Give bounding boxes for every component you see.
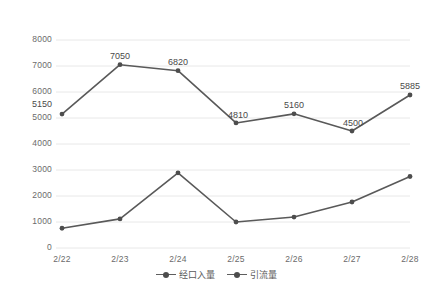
- data-point-label: 5885: [393, 81, 427, 91]
- data-point-label: 7050: [103, 51, 137, 61]
- x-axis-tick-label: 2/22: [42, 254, 82, 264]
- legend-item-2[interactable]: 引流量: [227, 268, 277, 281]
- series-lines: [62, 65, 410, 229]
- y-axis-tick-label: 0: [18, 242, 52, 252]
- y-axis-tick-label: 1000: [18, 216, 52, 226]
- data-point-label: 4810: [221, 110, 255, 120]
- data-point-marker: [234, 121, 239, 126]
- data-point-label: 5150: [25, 99, 59, 109]
- data-point-marker: [292, 111, 297, 116]
- data-point-marker: [60, 112, 65, 117]
- data-point-marker: [350, 129, 355, 134]
- data-point-marker: [408, 93, 413, 98]
- legend-marker-icon: [227, 270, 247, 279]
- data-point-label: 4500: [336, 118, 370, 128]
- data-point-marker: [292, 215, 297, 220]
- data-point-marker: [176, 68, 181, 73]
- gridlines: [56, 40, 410, 248]
- legend-item-1[interactable]: 经口入量: [156, 268, 215, 281]
- data-point-marker: [176, 170, 181, 175]
- data-point-marker: [408, 174, 413, 179]
- data-point-label: 5160: [277, 100, 311, 110]
- y-axis-tick-label: 7000: [18, 60, 52, 70]
- legend-marker-icon: [156, 270, 176, 279]
- x-axis-tick-label: 2/23: [100, 254, 140, 264]
- data-point-label: 6820: [161, 57, 195, 67]
- line-chart: 010002000300040005000600070008000 2/222/…: [0, 0, 432, 295]
- data-point-marker: [118, 62, 123, 67]
- data-point-marker: [234, 220, 239, 225]
- series-markers: [60, 62, 413, 230]
- y-axis-tick-label: 2000: [18, 190, 52, 200]
- y-axis-tick-label: 8000: [18, 34, 52, 44]
- y-axis-tick-label: 4000: [18, 138, 52, 148]
- x-axis-tick-label: 2/27: [332, 254, 372, 264]
- x-axis-tick-label: 2/24: [158, 254, 198, 264]
- legend-label: 引流量: [250, 268, 277, 281]
- y-axis-tick-label: 5000: [18, 112, 52, 122]
- data-point-marker: [60, 226, 65, 231]
- y-axis-tick-label: 6000: [18, 86, 52, 96]
- x-axis-tick-label: 2/28: [390, 254, 430, 264]
- data-point-marker: [350, 200, 355, 205]
- y-axis-tick-label: 3000: [18, 164, 52, 174]
- chart-plot-area: [0, 0, 432, 295]
- chart-legend: 经口入量引流量: [0, 268, 432, 281]
- x-axis-tick-label: 2/25: [216, 254, 256, 264]
- x-axis-tick-label: 2/26: [274, 254, 314, 264]
- data-point-marker: [118, 216, 123, 221]
- legend-label: 经口入量: [179, 268, 215, 281]
